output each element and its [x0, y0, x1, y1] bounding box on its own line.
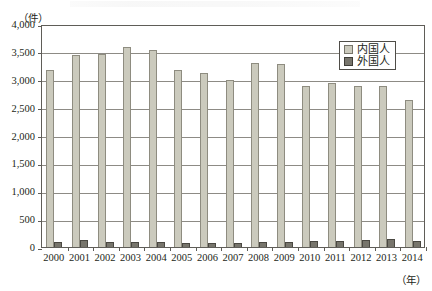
x-axis-tick-label: 2014	[396, 252, 428, 263]
legend-item-domestic: 内国人	[344, 44, 390, 55]
chart-legend: 内国人 外国人	[339, 41, 396, 70]
bar-foreign	[80, 240, 88, 247]
y-axis-tick-label: 2,500	[0, 104, 35, 114]
x-axis-tick	[221, 247, 222, 251]
bar-domestic	[46, 70, 54, 247]
legend-swatch-domestic-icon	[344, 45, 353, 54]
bar-foreign	[182, 243, 190, 247]
bar-group	[123, 47, 140, 247]
bar-group	[226, 80, 243, 247]
x-axis-tick	[400, 247, 401, 251]
bar-domestic	[328, 83, 336, 247]
y-axis-tick-label: 0	[0, 243, 35, 253]
bar-foreign	[106, 242, 114, 247]
bar-group	[98, 54, 115, 247]
x-axis-tick	[272, 247, 273, 251]
bar-group	[328, 83, 345, 247]
bar-domestic	[200, 73, 208, 247]
y-axis-tick-label: 3,500	[0, 48, 35, 58]
y-axis-tick-label: 1,000	[0, 187, 35, 197]
bar-domestic	[302, 86, 310, 247]
bar-foreign	[336, 241, 344, 247]
x-axis-tick	[119, 247, 120, 251]
bar-foreign	[413, 241, 421, 247]
bar-foreign	[259, 242, 267, 247]
bar-group	[174, 70, 191, 247]
bar-domestic	[149, 50, 157, 247]
bar-domestic	[379, 86, 387, 247]
bar-group	[251, 63, 268, 247]
x-axis-tick	[298, 247, 299, 251]
bar-domestic	[98, 54, 106, 247]
bar-group	[46, 70, 63, 247]
cropped-title-strip	[70, 1, 360, 7]
bar-group	[200, 73, 217, 247]
bar-domestic	[72, 55, 80, 247]
bar-domestic	[277, 64, 285, 247]
bar-domestic	[174, 70, 182, 247]
bar-foreign	[285, 242, 293, 247]
bar-foreign	[234, 243, 242, 247]
bar-group	[72, 55, 89, 247]
bar-group	[277, 64, 294, 247]
y-axis-tick-label: 1,500	[0, 159, 35, 169]
bar-domestic	[251, 63, 259, 247]
bar-foreign	[208, 243, 216, 247]
x-axis-tick	[426, 247, 427, 251]
bar-group	[379, 86, 396, 247]
bar-foreign	[362, 240, 370, 247]
x-axis-unit-label: （年）	[396, 272, 426, 287]
bar-domestic	[354, 86, 362, 247]
bar-group	[354, 86, 371, 247]
y-axis-tick	[38, 249, 42, 250]
bar-group	[149, 50, 166, 247]
y-axis-tick-label: 3,000	[0, 76, 35, 86]
x-axis-tick	[144, 247, 145, 251]
bar-chart: （件） 4,0003,5003,0002,5002,0001,5001,0005…	[0, 0, 432, 291]
legend-label-domestic: 内国人	[357, 44, 390, 55]
bar-foreign	[131, 242, 139, 247]
x-axis-tick	[247, 247, 248, 251]
y-axis-tick-label: 2,000	[0, 132, 35, 142]
x-axis-tick	[375, 247, 376, 251]
legend-swatch-foreign-icon	[344, 57, 353, 66]
bar-foreign	[54, 242, 62, 247]
x-axis-tick	[170, 247, 171, 251]
legend-item-foreign: 外国人	[344, 56, 390, 67]
bar-foreign	[157, 242, 165, 247]
x-axis-tick	[349, 247, 350, 251]
x-axis-tick	[324, 247, 325, 251]
legend-label-foreign: 外国人	[357, 56, 390, 67]
y-axis-tick-label: 4,000	[0, 20, 35, 30]
x-axis-tick	[93, 247, 94, 251]
bar-domestic	[123, 47, 131, 247]
bar-foreign	[310, 241, 318, 247]
y-axis-tick-label: 500	[0, 215, 35, 225]
bar-foreign	[387, 239, 395, 247]
x-axis-tick	[196, 247, 197, 251]
bar-group	[302, 86, 319, 247]
x-axis-tick	[68, 247, 69, 251]
bar-group	[405, 100, 422, 247]
bar-domestic	[405, 100, 413, 247]
bar-domestic	[226, 80, 234, 247]
